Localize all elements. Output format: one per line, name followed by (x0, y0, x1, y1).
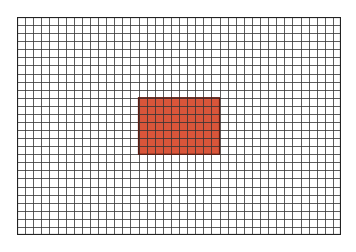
grid-diagram (17, 17, 341, 235)
grid-canvas (17, 17, 341, 235)
